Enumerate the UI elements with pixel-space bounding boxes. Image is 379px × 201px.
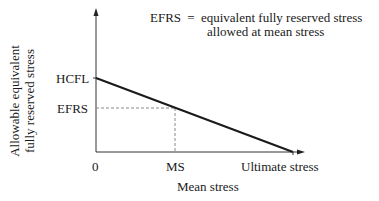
x-axis-arrow-icon — [297, 150, 305, 155]
hcfl-label: HCFL — [56, 72, 89, 85]
efrs-label: EFRS — [57, 102, 88, 115]
legend-term: EFRS — [150, 10, 181, 25]
legend-definition-line2: allowed at mean stress — [150, 25, 362, 39]
ultimate-stress-label: Ultimate stress — [241, 160, 319, 173]
ms-label: MS — [166, 160, 185, 173]
y-axis-label-line2: fully reserved stress — [22, 45, 37, 157]
legend: EFRS = equivalent fully reserved stress … — [150, 11, 362, 39]
legend-row1: EFRS = equivalent fully reserved stress — [150, 11, 362, 25]
x-axis-label: Mean stress — [177, 180, 239, 193]
legend-equals: = — [187, 10, 194, 25]
y-axis-arrow-icon — [94, 8, 99, 16]
legend-definition-line1: equivalent fully reserved stress — [201, 10, 362, 25]
origin-label: 0 — [92, 160, 99, 173]
y-axis-label: Allowable equivalent fully reserved stre… — [7, 45, 37, 157]
allowable-stress-line — [96, 78, 293, 152]
y-axis-label-line1: Allowable equivalent — [7, 45, 22, 157]
